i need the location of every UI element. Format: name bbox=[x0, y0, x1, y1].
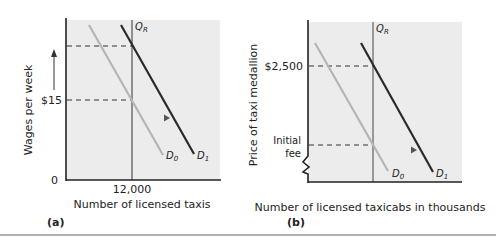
y-tick-initial: Initial bbox=[273, 135, 301, 146]
panel-label-b: (b) bbox=[287, 216, 305, 229]
y-tick-15: $15 bbox=[41, 94, 62, 107]
x-axis-label-b: Number of licensed taxicabs in thousands bbox=[255, 201, 486, 214]
y-tick-2500: $2,500 bbox=[265, 60, 304, 73]
x-axis-label-a: Number of licensed taxis bbox=[73, 198, 210, 211]
y-axis-label-b: Price of taxi medallion bbox=[247, 44, 260, 167]
panel-label-a: (a) bbox=[47, 216, 64, 229]
y-tick-fee: fee bbox=[285, 148, 301, 159]
x-tick-12000: 12,000 bbox=[113, 183, 152, 196]
figure: Wages per week $15 0 12,000 Number of li… bbox=[0, 0, 496, 250]
panel-a: Wages per week $15 0 12,000 Number of li… bbox=[22, 18, 221, 229]
plot-area-b bbox=[308, 22, 462, 182]
panel-b: Price of taxi medallion $2,500 Initial f… bbox=[247, 20, 486, 229]
y-tick-zero: 0 bbox=[51, 174, 58, 187]
up-arrowhead-icon bbox=[51, 49, 57, 57]
y-axis-label-a: Wages per week bbox=[22, 64, 35, 155]
